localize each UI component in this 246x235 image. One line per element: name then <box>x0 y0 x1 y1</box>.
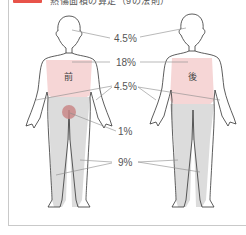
leader-arm-front-2 <box>96 87 112 100</box>
leader-leg-back-1 <box>138 160 178 162</box>
front-genital-area <box>62 105 76 119</box>
label-head: 4.5% <box>114 33 137 44</box>
label-genitals: 1% <box>118 126 133 137</box>
front-label: 前 <box>64 71 73 82</box>
label-trunk: 18% <box>116 57 136 68</box>
back-torso <box>170 58 214 109</box>
front-body: 前 <box>26 16 112 207</box>
back-body: 後 <box>150 14 236 207</box>
front-head <box>56 16 82 53</box>
rule-of-nines-diagram: 前 後 4.5% 18% 4.5% 1% 9% <box>0 0 246 235</box>
back-head <box>179 14 205 51</box>
label-arms: 4.5% <box>114 81 137 92</box>
back-legs <box>170 104 214 207</box>
leader-arm-back-1 <box>138 87 156 100</box>
leader-leg-front-2 <box>80 160 112 162</box>
label-legs: 9% <box>118 157 133 168</box>
back-label: 後 <box>188 71 197 82</box>
